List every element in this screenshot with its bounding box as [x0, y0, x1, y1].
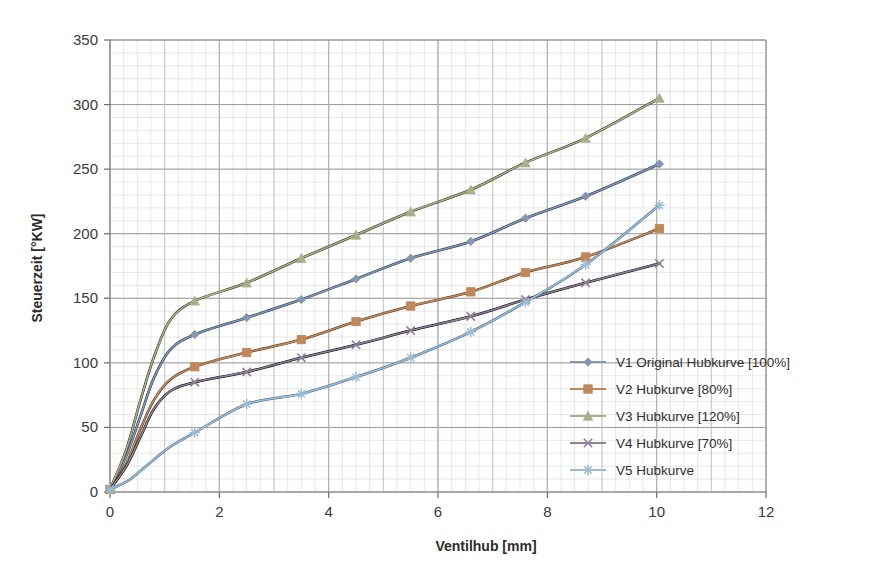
y-tick-label: 300 [73, 96, 98, 113]
series-4 [106, 259, 664, 493]
data-point-marker [655, 93, 664, 102]
x-tick-label: 2 [215, 503, 223, 520]
legend-item-label: V2 Hubkurve [80%] [616, 382, 732, 397]
data-point-marker [191, 363, 199, 371]
data-point-marker [297, 335, 305, 343]
data-point-marker [521, 268, 529, 276]
data-point-marker [297, 295, 305, 303]
legend-item-label: V1 Original Hubkurve [100%] [616, 355, 790, 370]
x-tick-label: 8 [543, 503, 551, 520]
data-point-marker [296, 389, 306, 399]
y-tick-label: 200 [73, 225, 98, 242]
data-point-marker [241, 399, 251, 409]
data-point-marker [466, 327, 476, 337]
y-axis-title: Steuerzeit [°KW] [29, 213, 45, 322]
data-point-marker [654, 200, 664, 210]
data-point-marker [242, 348, 250, 356]
data-series-group [105, 93, 665, 494]
data-point-marker [406, 302, 414, 310]
y-tick-label: 350 [73, 31, 98, 48]
series-5 [105, 200, 665, 495]
series-3 [105, 93, 664, 493]
legend-item-2[interactable]: V2 Hubkurve [80%] [570, 382, 732, 397]
y-tick-label: 0 [90, 483, 98, 500]
y-tick-label: 50 [81, 418, 98, 435]
x-tick-label: 4 [324, 503, 332, 520]
data-point-marker [467, 237, 475, 245]
legend-item-label: V3 Hubkurve [120%] [616, 409, 740, 424]
data-point-marker [584, 385, 592, 393]
data-point-marker [406, 254, 414, 262]
data-point-marker [467, 288, 475, 296]
data-point-marker [655, 224, 663, 232]
chart-container: 050100150200250300350 024681012 Ventilhu… [0, 0, 881, 586]
legend-item-label: V5 Hubkurve [616, 463, 694, 478]
data-point-marker [190, 427, 200, 437]
y-tick-label: 150 [73, 289, 98, 306]
data-point-marker [352, 317, 360, 325]
legend-item-1[interactable]: V1 Original Hubkurve [100%] [570, 355, 790, 370]
series-line [110, 263, 659, 489]
x-tick-label: 0 [106, 503, 114, 520]
series-line-outline [110, 205, 659, 489]
series-line-outline [110, 263, 659, 489]
data-point-marker [580, 260, 590, 270]
data-point-marker [242, 313, 250, 321]
x-tick-label: 12 [758, 503, 775, 520]
series-line [110, 205, 659, 489]
axis-ticks [104, 40, 766, 498]
legend-item-4[interactable]: V4 Hubkurve [70%] [570, 436, 732, 451]
line-chart: 050100150200250300350 024681012 Ventilhu… [0, 0, 881, 586]
data-point-marker [521, 214, 529, 222]
x-tick-labels: 024681012 [106, 503, 775, 520]
y-tick-labels: 050100150200250300350 [73, 31, 98, 500]
legend-item-3[interactable]: V3 Hubkurve [120%] [570, 409, 740, 424]
legend-item-label: V4 Hubkurve [70%] [616, 436, 732, 451]
data-point-marker [351, 372, 361, 382]
data-point-marker [584, 358, 592, 366]
data-point-marker [520, 297, 530, 307]
x-tick-label: 10 [648, 503, 665, 520]
y-tick-label: 250 [73, 160, 98, 177]
x-tick-label: 6 [434, 503, 442, 520]
data-point-marker [352, 275, 360, 283]
x-axis-title: Ventilhub [mm] [435, 538, 536, 554]
legend: V1 Original Hubkurve [100%]V2 Hubkurve [… [570, 355, 790, 478]
y-tick-label: 100 [73, 354, 98, 371]
data-point-marker [583, 465, 593, 475]
data-point-marker [405, 352, 415, 362]
